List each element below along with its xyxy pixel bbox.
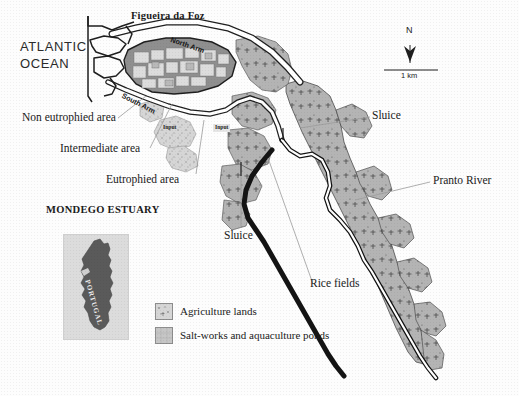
legend-label-agriculture: Agriculture lands — [180, 306, 257, 317]
legend-label-saltworks: Salt-works and aquaculture ponds — [180, 330, 329, 341]
agriculture-texture-icon — [156, 304, 172, 319]
saltworks-swatch — [155, 327, 173, 344]
saltworks-texture-icon — [156, 328, 172, 343]
portugal-inset-map: PORTUGAL — [63, 234, 129, 340]
map-figure: Figueira da Foz ATLANTIC OCEAN North Arm… — [0, 0, 519, 396]
scale-bar-label: 1 km — [401, 72, 417, 80]
inset-title: MONDEGO ESTUARY — [46, 205, 160, 216]
agriculture-swatch — [155, 303, 173, 320]
